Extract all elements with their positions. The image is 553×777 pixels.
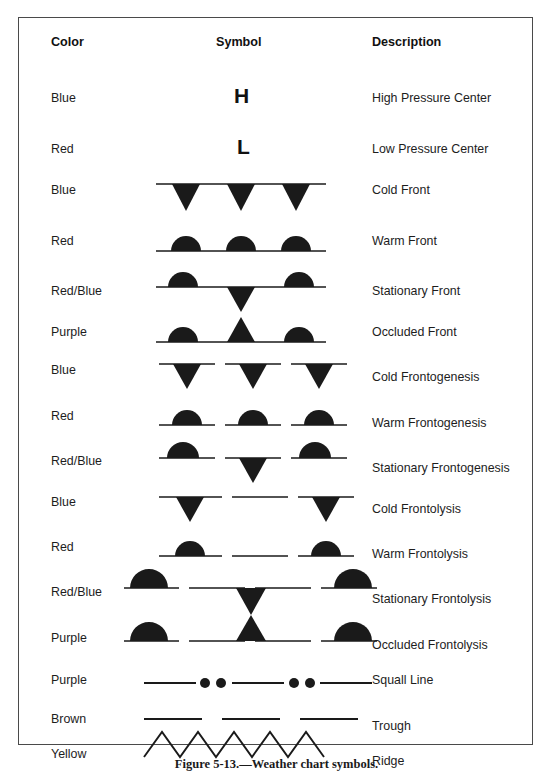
- column-header-symbol: Symbol: [216, 35, 262, 49]
- high-pressure-symbol: H: [234, 84, 249, 108]
- row-description-4: Stationary Front: [372, 284, 460, 298]
- row-color-7: Red: [51, 409, 74, 423]
- figure-caption: Figure 5-13.—Weather chart symbols.: [0, 757, 553, 772]
- warm-front-symbol: [114, 217, 384, 263]
- row-description-0: High Pressure Center: [372, 91, 491, 105]
- row-color-12: Purple: [51, 631, 87, 645]
- row-description-8: Stationary Frontogenesis: [372, 461, 510, 475]
- row-color-14: Brown: [51, 712, 86, 726]
- figure-page: Color Symbol Description Blue H High Pre…: [0, 0, 553, 777]
- stationary-frontogenesis-symbol: [114, 434, 384, 480]
- row-description-5: Occluded Front: [372, 325, 457, 339]
- row-color-3: Red: [51, 234, 74, 248]
- warm-frontogenesis-symbol: [114, 392, 384, 438]
- row-color-6: Blue: [51, 363, 76, 377]
- row-description-6: Cold Frontogenesis: [372, 370, 479, 384]
- row-description-11: Stationary Frontolysis: [372, 592, 491, 606]
- row-color-4: Red/Blue: [51, 284, 102, 298]
- low-pressure-symbol: L: [237, 135, 250, 159]
- row-color-10: Red: [51, 540, 74, 554]
- row-color-0: Blue: [51, 91, 76, 105]
- row-description-13: Squall Line: [372, 673, 433, 687]
- occluded-frontolysis-symbol: [94, 611, 394, 657]
- occluded-front-symbol: [114, 308, 384, 354]
- row-description-1: Low Pressure Center: [372, 142, 488, 156]
- row-color-1: Red: [51, 142, 74, 156]
- cold-front-symbol: [114, 170, 384, 216]
- row-description-2: Cold Front: [372, 183, 430, 197]
- row-description-9: Cold Frontolysis: [372, 502, 461, 516]
- stationary-front-symbol: [114, 263, 384, 309]
- row-description-7: Warm Frontogenesis: [372, 416, 487, 430]
- legend-table-frame: Color Symbol Description Blue H High Pre…: [18, 17, 533, 745]
- row-description-10: Warm Frontolysis: [372, 547, 468, 561]
- row-color-5: Purple: [51, 325, 87, 339]
- stationary-frontolysis-symbol: [94, 564, 394, 610]
- cold-frontolysis-symbol: [114, 482, 384, 528]
- column-header-color: Color: [51, 35, 84, 49]
- row-description-3: Warm Front: [372, 234, 437, 248]
- row-description-12: Occluded Frontolysis: [372, 638, 488, 652]
- row-color-13: Purple: [51, 673, 87, 687]
- warm-frontolysis-symbol: [114, 523, 384, 569]
- row-color-2: Blue: [51, 183, 76, 197]
- column-header-description: Description: [372, 35, 441, 49]
- cold-frontogenesis-symbol: [114, 351, 384, 397]
- row-color-8: Red/Blue: [51, 454, 102, 468]
- row-color-9: Blue: [51, 495, 76, 509]
